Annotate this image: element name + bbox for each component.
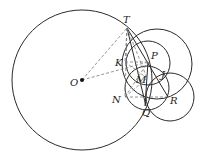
label-J: J: [159, 69, 166, 80]
label-K: K: [114, 57, 123, 68]
label-O: O: [70, 77, 78, 88]
line-TQ: [127, 28, 146, 106]
label-Q: Q: [142, 107, 150, 118]
point-O: [80, 78, 84, 82]
circle-large-right: [122, 29, 192, 99]
label-N: N: [111, 94, 122, 105]
label-R: R: [169, 95, 178, 106]
label-P: P: [150, 50, 158, 61]
geometry-diagram: T O K P M J N R Q: [0, 0, 205, 157]
diagram-canvas: T O K P M J N R Q: [0, 0, 205, 157]
dash-OT: [82, 28, 127, 80]
label-M: M: [135, 74, 147, 85]
label-T: T: [123, 14, 131, 25]
